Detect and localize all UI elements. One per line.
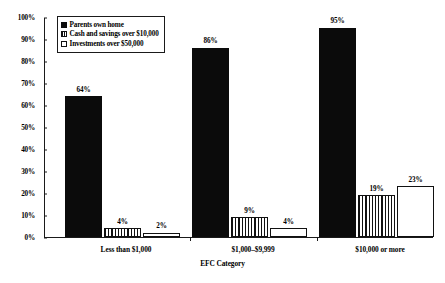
bar-value-label: 9% (244, 208, 254, 215)
bar-rect (143, 233, 180, 237)
bar-rect (358, 195, 395, 237)
bar-group-1000-9999: 86% 9% 4% (190, 17, 300, 237)
x-axis-title: EFC Category (0, 259, 445, 268)
bar-value-label: 4% (283, 219, 293, 226)
bar-group-10000-or-more: 95% 19% 23% (317, 17, 427, 237)
bar-investments-g2[interactable]: 4% (270, 219, 307, 238)
bar-rect (270, 228, 307, 237)
legend-label: Investments over $50,000 (70, 40, 144, 48)
x-axis-category-label-3: $10,000 or more (355, 245, 404, 254)
x-axis-category-label-1: Less than $1,000 (101, 245, 152, 254)
x-axis-tick-mark (190, 237, 191, 241)
bar-parents-own-home-g2[interactable]: 86% (192, 38, 229, 237)
y-axis-tick-label: 0% (25, 234, 35, 242)
bar-rect (397, 186, 434, 237)
legend-item-parents-own-home[interactable]: Parents own home (61, 20, 159, 30)
y-axis-tick-label: 20% (21, 190, 35, 198)
bar-cash-savings-g3[interactable]: 19% (358, 186, 395, 238)
bar-investments-g1[interactable]: 2% (143, 223, 180, 237)
bar-cash-savings-g2[interactable]: 9% (231, 208, 268, 238)
bar-value-label: 23% (409, 177, 423, 184)
legend-item-investments[interactable]: Investments over $50,000 (61, 39, 159, 49)
bar-rect (104, 228, 141, 237)
bar-cash-savings-g1[interactable]: 4% (104, 219, 141, 238)
y-axis-tick-label: 30% (21, 168, 35, 176)
bar-investments-g3[interactable]: 23% (397, 177, 434, 237)
legend-label: Parents own home (70, 21, 124, 29)
x-axis-category-label-2: $1,000–$9,999 (231, 245, 274, 254)
bar-rect (231, 217, 268, 237)
bar-value-label: 86% (204, 38, 218, 45)
bar-value-label: 95% (331, 18, 345, 25)
bar-rect (65, 96, 102, 237)
bar-chart: 100% 90% 80% 70% 60% 50% 40% 30% 20% 10%… (0, 0, 445, 283)
y-axis-tick-label: 90% (21, 36, 35, 44)
y-axis-tick-label: 40% (21, 146, 35, 154)
y-axis-tick-label: 70% (21, 80, 35, 88)
y-axis-tick-label: 50% (21, 124, 35, 132)
y-axis-tick-label: 80% (21, 58, 35, 66)
legend-swatch-solid-icon (61, 22, 67, 28)
bar-parents-own-home-g1[interactable]: 64% (65, 87, 102, 238)
bar-value-label: 4% (117, 219, 127, 226)
legend-item-cash-and-savings[interactable]: Cash and savings over $10,000 (61, 30, 159, 40)
legend: Parents own home Cash and savings over $… (57, 16, 165, 53)
y-axis: 100% 90% 80% 70% 60% 50% 40% 30% 20% 10%… (0, 18, 40, 238)
legend-swatch-hollow-icon (61, 41, 67, 47)
bar-value-label: 19% (370, 186, 384, 193)
legend-swatch-striped-icon (61, 31, 67, 37)
x-axis-tick-mark (317, 237, 318, 241)
y-axis-tick-label: 10% (21, 212, 35, 220)
bar-value-label: 2% (156, 223, 166, 230)
bar-value-label: 64% (77, 87, 91, 94)
bar-rect (319, 28, 356, 237)
bar-rect (192, 48, 229, 237)
y-axis-tick-label: 60% (21, 102, 35, 110)
legend-label: Cash and savings over $10,000 (70, 30, 159, 38)
bar-parents-own-home-g3[interactable]: 95% (319, 18, 356, 237)
y-axis-tick-label: 100% (18, 14, 35, 22)
